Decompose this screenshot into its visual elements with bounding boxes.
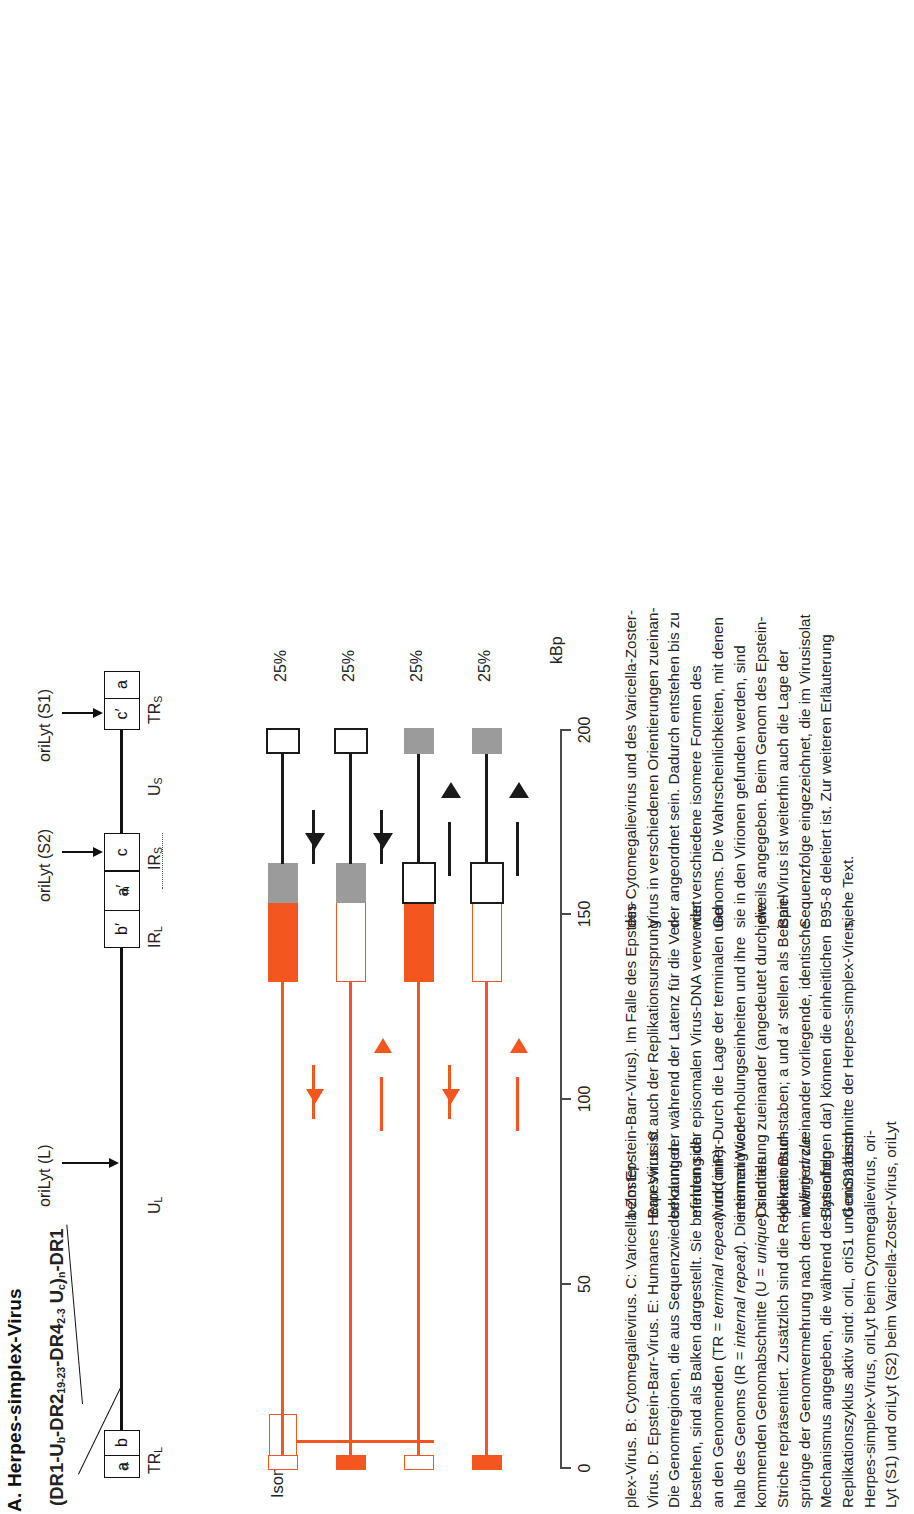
isomer1-stem-right — [281, 752, 284, 864]
region-label-trs: TRS — [146, 696, 164, 724]
isomer3-stem-left — [417, 981, 420, 1456]
formula-sub-b: b — [55, 1437, 67, 1443]
irl-irs-divider — [162, 833, 163, 889]
orilyt-s1-label: oriLyt (S1) — [36, 689, 54, 762]
caption-line: Sequenzfolge eingezeichnet, die im Virus… — [794, 650, 816, 928]
isomer1-stem-left — [281, 981, 284, 1456]
isomer3-segment-orange — [404, 902, 434, 982]
caption-column-2: beim Epstein-Barr-Virus). Im Falle des E… — [620, 940, 859, 1218]
isomer4-terminal-left — [472, 1455, 502, 1470]
caption-line: vier verschiedene isomere Formen des — [685, 650, 707, 928]
axis-tick-150 — [560, 913, 571, 915]
caption-line: Replikationszyklus aktiv sind: oriL, ori… — [837, 1230, 859, 1508]
caption-line: Basenfolgen dar) können die einheitliche… — [815, 940, 837, 1218]
genome-box-b: b — [104, 1430, 140, 1456]
region-label-us: US — [146, 777, 164, 796]
formula-p3: -DR4 — [46, 1324, 67, 1367]
isomer1-black-arrow-right — [304, 783, 322, 849]
caption-line: Genomabschnitte der Herpes-simplex-Viren… — [837, 940, 859, 1218]
isomer2-stem-left — [349, 981, 352, 1456]
caption-line: an den Genomenden (TR = terminal repeat)… — [707, 1230, 729, 1508]
axis-label-100: 100 — [576, 1078, 594, 1120]
isomer3-orange-arrow-left — [440, 1038, 458, 1104]
caption-line: der angeordnet sein. Dadurch entstehen b… — [663, 650, 685, 928]
caption-line: Virus in verschiedenen Orientierungen zu… — [642, 650, 664, 928]
isomer2-segment-orange — [336, 902, 366, 982]
isomer4-stem-right — [485, 752, 488, 864]
caption-line: Virus. D: Epstein-Barr-Virus. E: Humanes… — [642, 1230, 664, 1508]
isomer2-terminal-left — [336, 1455, 366, 1470]
isomer4-terminal-right — [472, 728, 502, 754]
isomer1-orange-stem — [296, 1440, 434, 1443]
caption-line: jeweils angegeben. Beim Genom des Epstei… — [750, 650, 772, 928]
formula-sub-23: 2-3 — [55, 1308, 67, 1323]
caption-line: wird (oriP). Durch die Lage der terminal… — [707, 940, 729, 1218]
isomer1-segment-orange — [268, 902, 298, 982]
page-title: A. Herpes-simplex-Virus — [4, 1288, 26, 1512]
isomer3-segment-black — [402, 862, 436, 904]
formula-p2: -DR2 — [46, 1394, 67, 1437]
formula-p4: U — [46, 1290, 67, 1309]
caption-line: bestehen, sind als Balken dargestellt. S… — [685, 1230, 707, 1508]
caption-line: halb des Genoms (IR = internal repeat). … — [729, 1230, 751, 1508]
caption-line: Die Genomregionen, die aus Sequenzwieder… — [663, 1230, 685, 1508]
isomer1-terminal-left — [268, 1455, 298, 1470]
axis-tick-0 — [560, 1467, 571, 1469]
caption-line: Mechanismus angegeben, die während des l… — [815, 1230, 837, 1508]
leader-line-lower — [66, 1225, 83, 1404]
isomer3-stem-right — [417, 752, 420, 864]
caption-line: Striche repräsentiert. Zusätzlich sind d… — [772, 1230, 794, 1508]
orilyt-s2-arrow — [62, 851, 94, 853]
caption-line: Barr-Virus ist auch der Replikationsursp… — [642, 940, 664, 1218]
isomer3-percent: 25% — [408, 650, 426, 682]
axis-label-150: 150 — [576, 893, 594, 935]
isomer2-black-arrow-right — [372, 783, 390, 849]
formula-sub-c: c — [55, 1284, 67, 1290]
region-label-trl: TRL — [146, 1447, 164, 1474]
orilyt-l-label: oriLyt (L) — [36, 1144, 54, 1207]
caption-line: mehrung der episomalen Virus-DNA verwend… — [685, 940, 707, 1218]
genome-box-aprime-m-label: a′m — [114, 872, 131, 910]
caption-line: siehe Text. — [837, 650, 859, 928]
isomer3-terminal-left — [404, 1455, 434, 1470]
axis-label-0: 0 — [576, 1447, 594, 1489]
isomer4-black-arrow-right — [508, 783, 526, 849]
orilyt-s2-label: oriLyt (S2) — [36, 829, 54, 902]
caption-line: Lyt (S1) und oriLyt (S2) beim Varicella-… — [880, 1230, 902, 1508]
isomer2-orange-arrow-left — [372, 1038, 390, 1104]
caption-line: des Cytomegalievirus und des Varicella-Z… — [620, 650, 642, 928]
genome-backbone-ul — [120, 948, 123, 1432]
isomer2-stem-right — [349, 752, 352, 864]
formula-p1: (DR1-U — [46, 1443, 67, 1506]
isomer1-orange-arrow-left — [304, 1038, 322, 1104]
caption-line: Herpes-simplex-Virus, oriLyt beim Cytome… — [859, 1230, 881, 1508]
axis-tick-100 — [560, 1098, 571, 1100]
genome-backbone-us — [120, 729, 123, 834]
genome-box-an-label: an — [114, 1456, 131, 1477]
figure-page: A. Herpes-simplex-Virus (DR1-Ub-DR219-23… — [0, 0, 914, 1514]
a-sequence-formula: (DR1-Ub-DR219-23-DR42-3 Uc)n-DR1 — [46, 1228, 68, 1506]
isomer3-terminal-right — [404, 728, 434, 754]
caption-line: Genoms. Die Wahrscheinlichkeiten, mit de… — [707, 650, 729, 928]
caption-line: internen Wiederholungseinheiten und ihre — [729, 940, 751, 1218]
isomer2-segment-gray — [336, 863, 366, 903]
isomer4-segment-orange — [472, 902, 502, 982]
formula-sub-n: n — [55, 1272, 67, 1278]
isomer1-percent: 25% — [272, 650, 290, 682]
caption-column-1: plex-Virus. B: Cytomegalievirus. C: Vari… — [620, 1230, 902, 1508]
caption-line: Barr-Virus ist weiterhin auch die Lage d… — [772, 650, 794, 928]
caption-line: sie in den Virionen gefunden werden, sin… — [729, 650, 751, 928]
caption-column-3: des Cytomegalievirus und des Varicella-Z… — [620, 650, 859, 928]
genome-box-an: an — [104, 1455, 140, 1478]
isomer4-orange-arrow-left — [508, 1038, 526, 1104]
genome-box-aprime-m: a′m — [104, 871, 140, 911]
caption-line: bekannt, der während der Latenz für die … — [663, 940, 685, 1218]
isomer2-terminal-right — [334, 728, 368, 754]
axis-label-50: 50 — [576, 1263, 594, 1305]
isomer1-segment-gray — [268, 863, 298, 903]
axis-tick-50 — [560, 1283, 571, 1285]
region-label-ul: UL — [146, 1197, 164, 1214]
formula-sub-1923: 19-23 — [55, 1367, 67, 1394]
caption-line: Orientierung zueinander (angedeutet durc… — [750, 940, 772, 1218]
caption-line: sprünge der Genomvermehrung nach dem rol… — [794, 1230, 816, 1508]
